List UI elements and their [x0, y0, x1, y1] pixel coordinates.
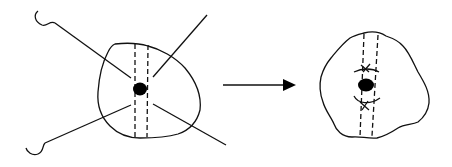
central-lesion-left [133, 83, 147, 96]
dashed-line-left-b [147, 45, 148, 137]
central-lesion-right [358, 79, 374, 92]
transform-arrow [223, 79, 296, 91]
suture-line-lower-left [45, 105, 131, 143]
hook-icon-lower [26, 143, 45, 155]
suture-line-upper-right [153, 15, 207, 77]
hook-icon-upper [35, 11, 55, 25]
diagram-svg [0, 0, 452, 167]
diagram-canvas: Surgical wound closure schematic: left s… [0, 0, 452, 167]
arrow-head-icon [283, 79, 296, 91]
suture-line-upper-left [55, 23, 131, 78]
left-figure [26, 11, 226, 155]
right-figure [320, 32, 429, 138]
tissue-outline-left [98, 43, 200, 138]
suture-line-lower-right [153, 104, 226, 145]
